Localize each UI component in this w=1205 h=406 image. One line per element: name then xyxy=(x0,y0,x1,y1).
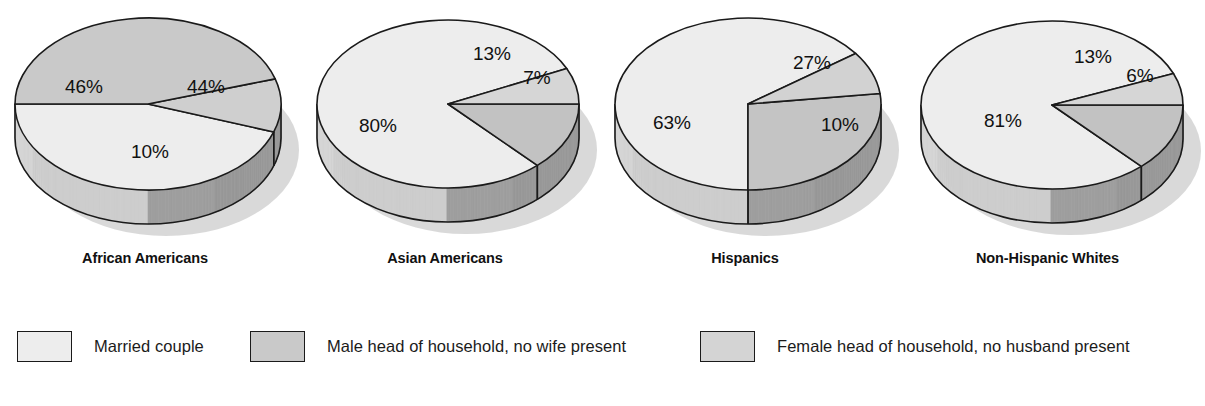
pie-side-wall xyxy=(471,186,474,220)
pie-side-wall xyxy=(1041,189,1044,223)
pie-side-wall xyxy=(659,168,662,203)
pie-side-wall xyxy=(673,175,676,210)
pie-side-wall xyxy=(802,182,805,217)
pie-side-wall xyxy=(776,188,779,222)
pie-side-wall xyxy=(751,190,754,224)
pie-side-wall xyxy=(682,178,685,213)
pie-side-wall xyxy=(1001,182,1004,217)
pie-side-wall xyxy=(662,169,665,204)
legend-label: Married couple xyxy=(94,337,204,356)
pie-side-wall xyxy=(956,162,958,198)
pie-side-wall xyxy=(244,162,246,198)
pie-side-wall xyxy=(62,169,65,204)
pie-side-wall xyxy=(724,189,727,223)
pie-side-wall xyxy=(789,185,792,220)
pie-side-wall xyxy=(91,182,94,217)
pie-side-wall xyxy=(553,152,555,188)
pie-side-wall xyxy=(734,190,737,224)
pie-side-wall xyxy=(1114,178,1117,213)
pie-side-wall xyxy=(945,154,947,190)
pie-side-wall xyxy=(464,187,467,221)
pie-side-wall xyxy=(799,183,802,218)
pie-side-wall xyxy=(959,164,961,200)
pie-side-wall xyxy=(551,154,553,190)
pie-side-wall xyxy=(1155,155,1157,191)
pie-side-wall xyxy=(73,175,76,210)
legend-swatch-icon xyxy=(17,331,72,362)
pie-side-wall xyxy=(977,174,980,209)
pie-side-wall xyxy=(961,165,963,201)
pie-side-wall xyxy=(457,188,460,222)
pie-side-wall xyxy=(240,165,242,201)
pie-side-wall xyxy=(345,156,347,192)
legend-item-3[interactable]: Female head of household, no husband pre… xyxy=(700,326,1130,366)
pie-side-wall xyxy=(772,188,775,222)
pie-side-wall xyxy=(844,162,846,198)
legend-item-1[interactable]: Married couple xyxy=(17,326,204,366)
pie-side-wall xyxy=(1044,189,1047,223)
pie-side-wall xyxy=(1004,183,1007,218)
legend-item-2[interactable]: Male head of household, no wife present xyxy=(250,326,626,366)
pie-side-wall xyxy=(249,158,251,194)
pie-side-wall xyxy=(645,158,647,194)
pie-side-wall xyxy=(720,188,723,222)
pie-chart-3[interactable]: 63%27%10% xyxy=(585,0,937,274)
pie-side-wall xyxy=(450,188,453,222)
pie-title-2: Asian Americans xyxy=(320,250,570,266)
pie-side-wall xyxy=(700,184,703,219)
pie-side-wall xyxy=(805,181,808,216)
pie-side-wall xyxy=(220,175,223,210)
pie-chart-4[interactable]: 81%13%6% xyxy=(891,0,1205,273)
pie-side-wall xyxy=(707,186,710,221)
pie-chart-2[interactable]: 80%13%7% xyxy=(287,0,635,272)
pie-side-wall xyxy=(454,188,457,222)
pie-side-wall xyxy=(547,157,549,193)
pie-side-wall xyxy=(847,160,849,196)
pie-side-wall xyxy=(367,170,370,205)
pie-side-wall xyxy=(192,184,195,219)
pie-side-wall xyxy=(820,175,823,210)
pie-side-wall xyxy=(1153,157,1155,193)
slice-value-label: 46% xyxy=(65,76,103,97)
pie-side-wall xyxy=(165,189,168,223)
pie-side-wall xyxy=(350,160,352,196)
pie-side-wall xyxy=(145,190,148,224)
pie-side-wall xyxy=(1058,189,1061,223)
pie-side-wall xyxy=(1128,172,1131,207)
pie-side-wall xyxy=(413,185,416,220)
pie-side-wall xyxy=(162,189,165,223)
slice-value-label: 27% xyxy=(793,52,831,73)
pie-title-4: Non-Hispanic Whites xyxy=(915,250,1180,266)
pie-side-wall xyxy=(849,158,851,194)
pie-side-wall xyxy=(647,160,649,196)
pie-side-wall xyxy=(1047,189,1050,223)
pie-side-wall xyxy=(474,186,477,220)
pie-side-wall xyxy=(527,170,530,205)
pie-side-wall xyxy=(503,179,506,214)
pie-side-wall xyxy=(832,169,835,204)
slice-value-label: 10% xyxy=(821,114,859,135)
pie-side-wall xyxy=(217,176,220,211)
pie-side-wall xyxy=(676,176,679,211)
pie-side-wall xyxy=(211,178,214,213)
pie-side-wall xyxy=(542,161,544,197)
pie-side-wall xyxy=(410,184,413,219)
pie-side-wall xyxy=(202,182,205,217)
pie-side-wall xyxy=(67,172,70,207)
pie-side-wall xyxy=(440,188,443,222)
pie-side-wall xyxy=(1061,189,1064,223)
pie-side-wall xyxy=(199,183,202,218)
pie-side-wall xyxy=(64,171,67,206)
pie-side-wall xyxy=(138,190,141,224)
pie-side-wall xyxy=(758,190,761,224)
pie-side-wall xyxy=(532,167,535,202)
pie-side-wall xyxy=(107,186,110,221)
legend-swatch-icon xyxy=(700,331,755,362)
pie-side-wall xyxy=(510,177,513,212)
pie-side-wall xyxy=(500,180,503,215)
slice-value-label: 80% xyxy=(359,115,397,136)
pie-side-wall xyxy=(88,181,91,216)
pie-side-wall xyxy=(829,171,832,206)
pie-side-wall xyxy=(969,170,972,205)
pie-side-wall xyxy=(251,156,253,192)
